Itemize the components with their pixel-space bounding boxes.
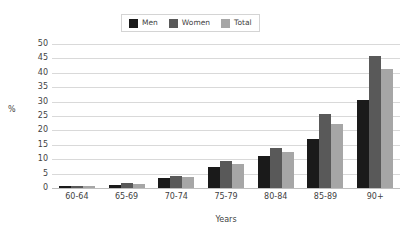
bar-women-65-69[interactable] (121, 183, 133, 188)
legend-swatch-women (169, 19, 178, 28)
bar-women-75-79[interactable] (220, 161, 232, 188)
legend-swatch-men (129, 19, 138, 28)
y-axis-tick-label: 5 (8, 170, 48, 178)
bar-women-90plus[interactable] (369, 56, 381, 188)
x-axis-tick-label: 75-79 (201, 192, 251, 201)
y-axis-tick-label: 30 (8, 98, 48, 106)
bar-group-90plus (350, 44, 400, 188)
bar-group-60-64 (52, 44, 102, 188)
y-axis-tick-label: 0 (8, 184, 48, 192)
legend-label: Total (234, 19, 252, 27)
bar-total-75-79[interactable] (232, 164, 244, 188)
bar-men-60-64[interactable] (59, 186, 71, 188)
x-axis-tick-label: 90+ (350, 192, 400, 201)
bar-group-75-79 (201, 44, 251, 188)
bar-total-60-64[interactable] (83, 186, 95, 188)
x-axis-tick-label: 85-89 (301, 192, 351, 201)
legend-label: Women (182, 19, 210, 27)
bar-women-85-89[interactable] (319, 114, 331, 188)
x-axis-tick-label: 60-64 (52, 192, 102, 201)
bar-women-70-74[interactable] (170, 176, 182, 188)
x-axis-line (52, 188, 400, 189)
legend-label: Men (142, 19, 158, 27)
y-axis-tick-label: 15 (8, 141, 48, 149)
bar-chart: MenWomenTotal % 50454035302520151050 60-… (0, 0, 412, 238)
legend-entry-women[interactable]: Women (169, 19, 210, 28)
bar-total-80-84[interactable] (282, 152, 294, 188)
bar-women-60-64[interactable] (71, 186, 83, 188)
bar-men-75-79[interactable] (208, 167, 220, 188)
bar-men-65-69[interactable] (109, 185, 121, 188)
legend-swatch-total (221, 19, 230, 28)
bar-men-80-84[interactable] (258, 156, 270, 188)
chart-legend: MenWomenTotal (121, 14, 260, 32)
x-axis-tick-labels: 60-6465-6970-7475-7980-8485-8990+ (52, 192, 400, 201)
y-axis-tick-labels: 50454035302520151050 (6, 44, 48, 188)
bar-men-70-74[interactable] (158, 178, 170, 188)
bar-group-85-89 (301, 44, 351, 188)
x-axis-tick-label: 70-74 (151, 192, 201, 201)
bar-women-80-84[interactable] (270, 148, 282, 188)
legend-entry-men[interactable]: Men (129, 19, 158, 28)
y-axis-tick-label: 40 (8, 69, 48, 77)
y-axis-tick-label: 50 (8, 40, 48, 48)
bar-total-85-89[interactable] (331, 124, 343, 189)
bar-series-layer (52, 44, 400, 188)
legend-entry-total[interactable]: Total (221, 19, 252, 28)
x-axis-tick-label: 65-69 (102, 192, 152, 201)
bar-men-90plus[interactable] (357, 100, 369, 188)
y-axis-tick-label: 10 (8, 155, 48, 163)
x-axis-tick-label: 80-84 (251, 192, 301, 201)
y-axis-tick-label: 45 (8, 54, 48, 62)
bar-group-70-74 (151, 44, 201, 188)
bar-group-65-69 (102, 44, 152, 188)
y-axis-tick-label: 20 (8, 126, 48, 134)
bar-men-85-89[interactable] (307, 139, 319, 188)
bar-group-80-84 (251, 44, 301, 188)
bar-total-90plus[interactable] (381, 69, 393, 188)
y-axis-tick-label: 25 (8, 112, 48, 120)
x-axis-title: Years (52, 215, 400, 224)
bar-total-65-69[interactable] (133, 184, 145, 188)
y-axis-tick-label: 35 (8, 83, 48, 91)
bar-total-70-74[interactable] (182, 177, 194, 188)
